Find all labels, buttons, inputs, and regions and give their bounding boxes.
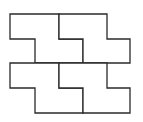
tessellation-diagram xyxy=(0,0,143,122)
